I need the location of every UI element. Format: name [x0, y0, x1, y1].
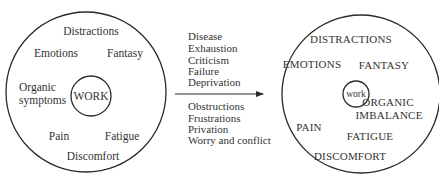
- right-label-fantasy: FANTASY: [359, 59, 409, 71]
- left-label-fatigue: Fatigue: [105, 130, 140, 143]
- left-label-distractions: Distractions: [63, 25, 119, 37]
- right-label-emotions: EMOTIONS: [283, 58, 341, 70]
- left-label-organic: Organic: [19, 81, 56, 94]
- factor-deprivation: Deprivation: [188, 76, 241, 88]
- factor-disease: Disease: [188, 30, 222, 42]
- factor-worry-conflict: Worry and conflict: [188, 134, 271, 146]
- left-label-fantasy: Fantasy: [107, 47, 143, 60]
- right-label-distractions: DISTRACTIONS: [310, 33, 392, 45]
- right-label-organic: ORGANIC: [362, 96, 414, 108]
- right-label-discomfort: DISCOMFORT: [314, 150, 386, 162]
- left-label-discomfort: Discomfort: [67, 150, 120, 162]
- right-label-fatigue: FATIGUE: [347, 130, 393, 142]
- left-diagram: WORK Distractions Emotions Fantasy Organ…: [6, 12, 166, 172]
- left-label-symptoms: symptoms: [19, 94, 67, 107]
- left-label-emotions: Emotions: [34, 47, 79, 59]
- factor-obstructions: Obstructions: [188, 100, 244, 112]
- right-label-imbalance: IMBALANCE: [355, 109, 422, 121]
- left-label-pain: Pain: [49, 130, 70, 142]
- factor-exhaustion: Exhaustion: [188, 42, 238, 54]
- right-diagram: work DISTRACTIONS EMOTIONS FANTASY ORGAN…: [282, 15, 439, 173]
- transition-arrow: Disease Exhaustion Criticism Failure Dep…: [175, 30, 271, 146]
- left-center-label: WORK: [73, 90, 109, 102]
- right-label-pain: PAIN: [296, 121, 321, 133]
- work-distraction-diagram: WORK Distractions Emotions Fantasy Organ…: [0, 0, 439, 185]
